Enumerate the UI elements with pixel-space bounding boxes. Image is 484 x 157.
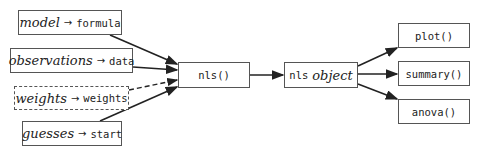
result-code-label: nls xyxy=(289,69,308,81)
concept-label: observations xyxy=(9,53,93,68)
argument-label: start xyxy=(90,128,122,140)
input-box-weights: weights → weights xyxy=(14,86,129,110)
concept-label: model xyxy=(20,15,60,30)
method-box-anova: anova() xyxy=(398,99,470,124)
function-label: nls() xyxy=(198,69,230,81)
result-box-nls-object: nls object xyxy=(284,62,358,88)
input-box-observations: observations → data xyxy=(10,48,133,73)
method-label: plot() xyxy=(415,30,453,42)
argument-label: formula xyxy=(76,17,120,29)
arrow-right-icon: → xyxy=(64,17,72,28)
argument-label: weights xyxy=(83,92,127,104)
arrow-right-icon: → xyxy=(97,55,105,66)
method-label: summary() xyxy=(406,68,463,80)
input-box-guesses: guesses → start xyxy=(22,121,122,146)
arrow-observations-to-nls xyxy=(133,67,177,70)
argument-label: data xyxy=(109,55,134,67)
method-box-summary: summary() xyxy=(398,61,470,86)
concept-label: weights xyxy=(15,91,67,106)
arrow-right-icon: → xyxy=(71,93,79,104)
result-text-label: object xyxy=(312,68,352,83)
arrow-object-to-anova xyxy=(358,84,397,99)
input-box-model: model → formula xyxy=(18,10,122,35)
arrow-object-to-plot xyxy=(358,48,397,66)
arrow-right-icon: → xyxy=(78,128,86,139)
method-label: anova() xyxy=(412,106,456,118)
function-box-nls: nls() xyxy=(178,62,250,88)
method-box-plot: plot() xyxy=(398,23,470,48)
arrow-weights-to-nls xyxy=(129,80,177,90)
concept-label: guesses xyxy=(22,126,74,141)
